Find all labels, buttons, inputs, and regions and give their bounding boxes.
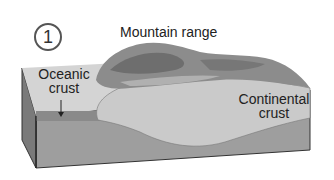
oceanic-crust-label: Oceanic crust (36, 67, 92, 95)
step-number-badge: 1 (34, 23, 62, 51)
continental-crust-label: Continental crust (234, 92, 314, 120)
mountain-range-label: Mountain range (120, 25, 217, 39)
oceanic-crust-layer (36, 111, 100, 121)
